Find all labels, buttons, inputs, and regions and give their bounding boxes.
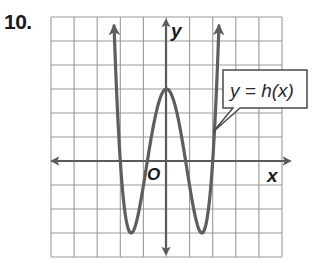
function-callout: y = h(x) — [213, 70, 307, 132]
y-axis-label: y — [170, 20, 183, 41]
function-label: y = h(x) — [228, 80, 294, 101]
x-axis-label: x — [266, 165, 279, 186]
origin-label: O — [147, 165, 160, 184]
function-graph: y x O y = h(x) — [0, 0, 323, 264]
